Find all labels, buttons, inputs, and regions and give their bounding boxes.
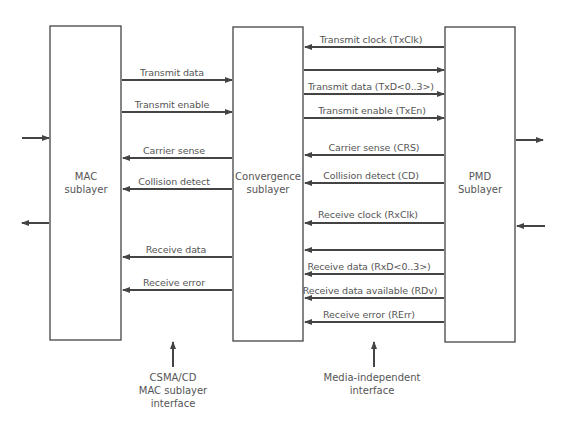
caption-mac-interface: CSMA/CD MAC sublayer interface [139, 371, 207, 410]
label-rxd: Receive data (RxD<0..3>) [307, 261, 430, 272]
label-receive-error: Receive error [143, 277, 205, 288]
convergence-label-line2: sublayer [235, 183, 301, 196]
label-rerr: Receive error (RErr) [323, 309, 415, 320]
caption-mac-interface-line1: CSMA/CD [139, 371, 207, 384]
pmd-label-line2: Sublayer [458, 183, 502, 196]
label-txen: Transmit enable (TxEn) [318, 105, 426, 116]
label-transmit-data: Transmit data [140, 67, 204, 78]
caption-mii: Media-independent interface [324, 371, 421, 397]
label-txclk: Transmit clock (TxClk) [320, 34, 423, 45]
label-cd: Collision detect (CD) [323, 170, 418, 181]
mac-label-line2: sublayer [65, 183, 108, 196]
label-carrier-sense: Carrier sense [143, 145, 205, 156]
label-txd: Transmit data (TxD<0..3>) [308, 81, 434, 92]
label-transmit-enable: Transmit enable [135, 99, 209, 110]
diagram-canvas [0, 0, 564, 429]
label-rxclk: Receive clock (RxClk) [318, 209, 418, 220]
caption-mii-line2: interface [324, 384, 421, 397]
caption-mac-interface-line2: MAC sublayer [139, 384, 207, 397]
mac-sublayer-label: MAC sublayer [65, 170, 108, 196]
convergence-sublayer-label: Convergence sublayer [235, 170, 301, 196]
pmd-sublayer-label: PMD Sublayer [458, 170, 502, 196]
mac-label-line1: MAC [65, 170, 108, 183]
convergence-label-line1: Convergence [235, 170, 301, 183]
label-receive-data: Receive data [146, 244, 206, 255]
caption-mac-interface-line3: interface [139, 397, 207, 410]
pmd-label-line1: PMD [458, 170, 502, 183]
label-rdv: Receive data available (RDv) [303, 285, 438, 296]
label-collision-detect: Collision detect [138, 176, 210, 187]
caption-mii-line1: Media-independent [324, 371, 421, 384]
label-crs: Carrier sense (CRS) [329, 142, 420, 153]
